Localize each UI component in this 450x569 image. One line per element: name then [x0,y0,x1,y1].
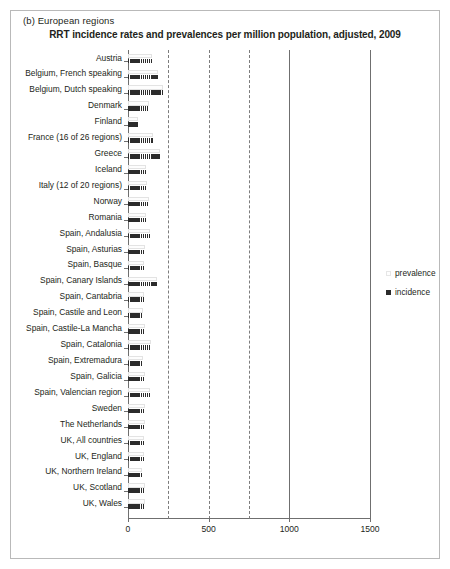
figure-panel: (b) European regions RRT incidence rates… [0,0,450,569]
bar-incidence [128,457,144,461]
x-tick-label-1500: 1500 [360,524,379,534]
bar-row: Sweden [128,400,370,416]
category-label: Spain, Castile-La Mancha [26,321,122,337]
bar-prevalence [128,420,145,424]
x-tick-500 [209,518,210,522]
bar-row: The Netherlands [128,416,370,432]
bar-prevalence [128,133,153,137]
bar-row: Spain, Extremadura [128,353,370,369]
bar-row: France (16 of 26 regions) [128,130,370,146]
incidence-swatch-icon [386,290,391,295]
bar-prevalence [128,468,142,472]
bar-incidence [128,266,144,270]
bar-prevalence [128,308,143,312]
bar-prevalence [128,277,157,281]
bar-prevalence [128,404,145,408]
category-label: Spain, Catalonia [61,337,122,353]
bar-prevalence [128,70,158,74]
legend-label-prevalence: prevalence [395,268,436,278]
category-label: UK, All countries [61,433,122,449]
bar-row: Spain, Castile-La Mancha [128,321,370,337]
bar-prevalence [128,452,144,456]
bar-row: UK, Northern Ireland [128,464,370,480]
bar-incidence [128,106,149,110]
bar-incidence [128,297,144,301]
x-tick-label-0: 0 [126,524,131,534]
bar-incidence [128,250,145,254]
bar-prevalence [128,292,144,296]
bar-row: Finland [128,114,370,130]
bar-row: Iceland [128,161,370,177]
bar-prevalence [128,436,144,440]
bar-row: Belgium, Dutch speaking [128,82,370,98]
category-label: UK, England [75,449,122,465]
category-label: Denmark [88,98,122,114]
bar-prevalence [128,340,151,344]
legend: prevalence incidence [386,268,436,306]
category-label: UK, Northern Ireland [45,464,122,480]
bar-incidence [128,154,160,158]
x-tick-1000 [289,518,290,522]
bar-row: Norway [128,193,370,209]
bar-prevalence [128,117,138,121]
bar-incidence [128,313,143,317]
x-tick-label-500: 500 [201,524,215,534]
bar-row: Greece [128,146,370,162]
bar-prevalence [128,101,149,105]
x-tick-0 [128,518,129,522]
bar-prevalence [128,499,145,503]
bar-prevalence [128,324,145,328]
bar-prevalence [128,388,150,392]
bar-row: Spain, Castile and Leon [128,305,370,321]
bar-incidence [128,59,152,63]
bar-prevalence [128,483,145,487]
bar-incidence [128,234,150,238]
bar-row: Spain, Basque [128,257,370,273]
bar-incidence [128,186,147,190]
bar-row: Spain, Valencian region [128,384,370,400]
x-tick-label-1000: 1000 [280,524,299,534]
category-label: Iceland [95,162,122,178]
bar-prevalence [128,54,152,58]
bar-row: Spain, Galicia [128,368,370,384]
bar-incidence [128,425,145,429]
bar-prevalence [128,149,160,153]
category-label: Spain, Canary Islands [40,273,122,289]
bar-incidence [128,282,157,286]
category-label: Finland [95,114,122,130]
bar-row: Belgium, French speaking [128,66,370,82]
bar-incidence [128,409,145,413]
category-label: Belgium, Dutch speaking [29,82,122,98]
bar-prevalence [128,356,143,360]
bar-incidence [128,393,150,397]
category-label: The Netherlands [60,417,122,433]
bar-row: Spain, Asturias [128,241,370,257]
bar-prevalence [128,372,145,376]
bar-row-group: AustriaBelgium, French speakingBelgium, … [128,50,370,512]
category-label: Spain, Andalusia [60,226,122,242]
bar-prevalence [128,213,146,217]
plot-area: 050010001500 AustriaBelgium, French spea… [128,50,370,519]
bar-prevalence [128,165,146,169]
bar-row: Austria [128,50,370,66]
panel-label: (b) European regions [23,15,114,26]
bar-row: Spain, Canary Islands [128,273,370,289]
bar-incidence [128,202,149,206]
bar-incidence [128,170,146,174]
bar-prevalence [128,245,145,249]
bar-prevalence [128,197,149,201]
bar-row: Spain, Andalusia [128,225,370,241]
category-label: Romania [88,210,122,226]
bar-prevalence [128,181,147,185]
bar-incidence [128,329,145,333]
category-label: Italy (12 of 20 regions) [39,178,122,194]
category-label: Austria [96,51,122,67]
bar-prevalence [128,261,144,265]
bar-incidence [128,138,153,142]
bar-incidence [128,361,143,365]
legend-item-prevalence: prevalence [386,268,436,278]
category-label: Sweden [92,401,122,417]
category-label: Norway [94,194,122,210]
category-label: Spain, Valencian region [34,385,122,401]
bar-row: Denmark [128,98,370,114]
